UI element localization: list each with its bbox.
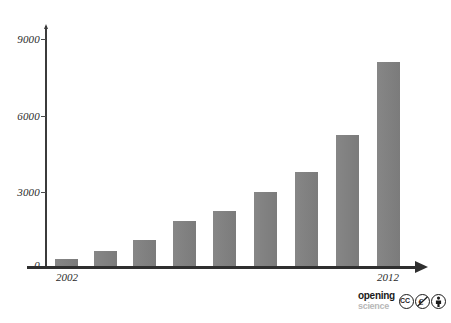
svg-text:CC: CC: [400, 297, 410, 304]
bar-3[interactable]: [133, 240, 156, 267]
bar-7[interactable]: [295, 172, 318, 267]
opening-science-logo: opening science CC €: [358, 291, 446, 311]
x-axis-line: [27, 266, 418, 269]
logo-line-science: science: [358, 302, 395, 311]
bar-9[interactable]: [377, 62, 400, 267]
bar-chart: 9000 6000 3000 0 2002 2012 opening scien…: [0, 0, 451, 323]
x-tick-label-2012: 2012: [366, 271, 410, 283]
x-tick-label-2002: 2002: [45, 271, 89, 283]
bar-4[interactable]: [173, 221, 196, 267]
logo-wordmark: opening science: [358, 291, 395, 311]
attribution-icon: [431, 294, 446, 309]
cc-icon: CC: [399, 294, 414, 309]
logo-line-opening: opening: [358, 291, 395, 301]
bar-8[interactable]: [336, 135, 359, 267]
bar-6[interactable]: [254, 192, 277, 267]
non-commercial-icon: €: [415, 294, 430, 309]
bar-2[interactable]: [94, 251, 117, 267]
creative-commons-badges: CC €: [399, 294, 446, 309]
bar-5[interactable]: [213, 211, 236, 267]
x-axis-arrow-icon: [415, 261, 428, 273]
